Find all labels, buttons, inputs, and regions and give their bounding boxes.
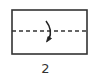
paper-rectangle xyxy=(12,10,87,54)
step-number: 2 xyxy=(0,62,91,76)
